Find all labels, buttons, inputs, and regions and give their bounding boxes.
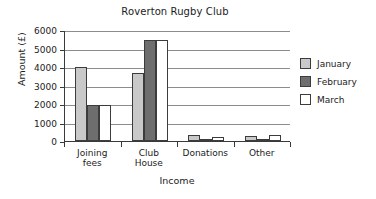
x-axis-tick-mark: [290, 142, 291, 147]
legend-swatch: [300, 58, 311, 69]
legend-label: February: [317, 77, 357, 87]
y-axis-tick-label: 2000: [23, 100, 57, 110]
bar: [257, 139, 269, 141]
y-axis-title: Amount (£): [16, 32, 27, 86]
bar: [75, 67, 87, 141]
chart-legend: JanuaryFebruaryMarch: [300, 58, 357, 105]
bar: [188, 135, 200, 141]
legend-item: February: [300, 76, 357, 87]
x-axis-tick-mark: [121, 142, 122, 147]
x-axis-tick-mark: [234, 142, 235, 147]
x-axis-category-label: Joining fees: [64, 148, 121, 168]
y-axis-tick-mark: [60, 68, 64, 69]
plot-area: [64, 31, 290, 142]
bar: [156, 40, 168, 141]
legend-item: March: [300, 94, 357, 105]
y-axis-tick-mark: [60, 87, 64, 88]
x-axis-category-label: Club House: [121, 148, 178, 168]
y-axis-tick-mark: [60, 124, 64, 125]
bar: [144, 40, 156, 141]
bar: [200, 139, 212, 141]
y-axis-tick-label: 5000: [23, 45, 57, 55]
y-axis-tick-label: 0: [23, 137, 57, 147]
bar-group: [122, 31, 179, 141]
legend-label: March: [317, 95, 344, 105]
y-axis-tick-label: 6000: [23, 26, 57, 36]
bar: [132, 73, 144, 141]
x-axis-category-label: Donations: [177, 148, 234, 158]
bar-group: [178, 31, 235, 141]
bar: [269, 135, 281, 141]
y-axis-tick-mark: [60, 31, 64, 32]
bar-group: [65, 31, 122, 141]
bar: [245, 136, 257, 141]
legend-item: January: [300, 58, 357, 69]
x-axis-title: Income: [64, 175, 290, 186]
chart-title: Roverton Rugby Club: [60, 6, 290, 17]
y-axis-tick-mark: [60, 105, 64, 106]
bar: [99, 105, 111, 141]
bar: [212, 137, 224, 141]
y-axis-tick-label: 1000: [23, 119, 57, 129]
x-axis-tick-mark: [64, 142, 65, 147]
legend-label: January: [317, 59, 351, 69]
bar-chart: Roverton Rugby Club Amount (£) Income Ja…: [0, 0, 376, 199]
x-axis-category-label: Other: [234, 148, 291, 158]
bar: [87, 105, 99, 141]
legend-swatch: [300, 94, 311, 105]
legend-swatch: [300, 76, 311, 87]
y-axis-tick-label: 3000: [23, 82, 57, 92]
y-axis-tick-label: 4000: [23, 63, 57, 73]
bar-group: [235, 31, 292, 141]
x-axis-tick-mark: [177, 142, 178, 147]
y-axis-tick-mark: [60, 50, 64, 51]
